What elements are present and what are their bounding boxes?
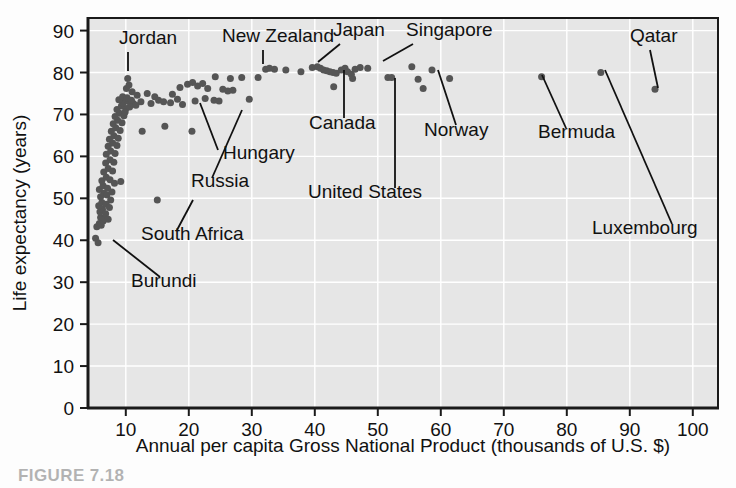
annotation-label-russia: Russia (191, 170, 250, 191)
data-point (238, 74, 245, 81)
y-axis-tick-labels: 0102030405060708090 (53, 21, 74, 419)
data-point (420, 85, 427, 92)
annotation-label-new-zealand: New Zealand (222, 25, 334, 46)
y-tick-label: 0 (63, 398, 74, 419)
x-tick-label: 10 (115, 419, 136, 440)
data-point (137, 98, 144, 105)
data-point (212, 73, 219, 80)
data-point (160, 98, 167, 105)
data-point (95, 239, 102, 246)
data-point (428, 67, 435, 74)
y-tick-label: 90 (53, 21, 74, 42)
data-point (202, 95, 209, 102)
data-point (446, 75, 453, 82)
data-point (246, 96, 253, 103)
data-point (297, 68, 304, 75)
data-point (179, 101, 186, 108)
data-point (271, 66, 278, 73)
y-tick-label: 40 (53, 230, 74, 251)
x-axis-title: Annual per capita Gross National Product… (136, 435, 670, 456)
y-axis-title: Life expectancy (years) (9, 115, 30, 311)
data-point (282, 67, 289, 74)
data-point (192, 98, 199, 105)
data-point (174, 96, 181, 103)
data-point (188, 128, 195, 135)
data-point (108, 189, 115, 196)
data-point (349, 75, 356, 82)
figure-container: 102030405060708090100 010203040506070809… (0, 0, 736, 488)
y-tick-label: 80 (53, 63, 74, 84)
data-point (229, 87, 236, 94)
annotation-label-burundi: Burundi (131, 270, 197, 291)
data-point (169, 91, 176, 98)
data-point (119, 119, 126, 126)
data-point (364, 65, 371, 72)
data-point (125, 82, 132, 89)
annotation-label-south-africa: South Africa (141, 223, 244, 244)
data-point (105, 216, 112, 223)
annotation-label-singapore: Singapore (406, 19, 493, 40)
data-point (113, 142, 120, 149)
data-point (148, 100, 155, 107)
data-point (204, 85, 211, 92)
data-point (106, 204, 113, 211)
data-point (112, 150, 119, 157)
annotation-label-japan: Japan (333, 19, 385, 40)
data-point (255, 74, 262, 81)
y-tick-label: 30 (53, 272, 74, 293)
y-tick-label: 70 (53, 104, 74, 125)
data-point (597, 69, 604, 76)
data-point (109, 168, 116, 175)
y-tick-label: 60 (53, 146, 74, 167)
data-point (161, 123, 168, 130)
figure-caption: FIGURE 7.18 (18, 466, 124, 486)
data-point (415, 76, 422, 83)
data-point (154, 197, 161, 204)
data-point (115, 135, 122, 142)
data-point (357, 64, 364, 71)
data-point (167, 99, 174, 106)
data-point (111, 180, 118, 187)
annotation-label-bermuda: Bermuda (538, 121, 616, 142)
annotation-label-hungary: Hungary (223, 142, 295, 163)
annotation-label-luxembourg: Luxembourg (592, 217, 698, 238)
data-point (199, 80, 206, 87)
data-point (117, 178, 124, 185)
y-tick-label: 10 (53, 356, 74, 377)
scatter-chart: 102030405060708090100 010203040506070809… (0, 0, 736, 488)
x-tick-label: 100 (677, 419, 709, 440)
annotation-label-norway: Norway (424, 119, 489, 140)
annotation-label-qatar: Qatar (630, 25, 678, 46)
data-point (139, 128, 146, 135)
data-point (330, 83, 337, 90)
data-point (144, 90, 151, 97)
annotation-label-canada: Canada (309, 112, 376, 133)
data-point (151, 93, 158, 100)
annotation-label-united-states: United States (308, 181, 422, 202)
data-point (216, 98, 223, 105)
plot-area-background (88, 18, 718, 408)
data-point (408, 63, 415, 70)
y-tick-label: 50 (53, 188, 74, 209)
data-point (176, 84, 183, 91)
data-point (107, 197, 114, 204)
data-point (227, 75, 234, 82)
data-point (124, 75, 131, 82)
data-point (117, 127, 124, 134)
data-point (110, 159, 117, 166)
annotation-label-jordan: Jordan (119, 27, 177, 48)
y-tick-label: 20 (53, 314, 74, 335)
data-point (134, 92, 141, 99)
